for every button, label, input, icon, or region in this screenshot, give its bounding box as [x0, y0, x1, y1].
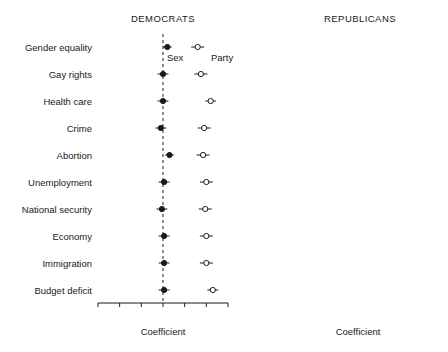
x-axis-title-democrats: Coefficient: [123, 326, 203, 337]
point-marker-sex: [161, 260, 166, 265]
point-marker-sex: [160, 98, 165, 103]
x-axis-title-republicans: Coefficient: [318, 326, 398, 337]
point-marker-party: [198, 71, 203, 76]
point-marker-party: [202, 125, 207, 130]
point-marker-sex: [159, 206, 164, 211]
point-marker-sex: [160, 71, 165, 76]
point-marker-sex: [161, 287, 166, 292]
point-marker-party: [195, 44, 200, 49]
point-marker-party: [204, 260, 209, 265]
point-marker-party: [210, 287, 215, 292]
annotation-sex: Sex: [167, 52, 183, 63]
point-marker-sex: [167, 152, 172, 157]
point-marker-sex: [161, 179, 166, 184]
point-marker-sex: [158, 125, 163, 130]
point-marker-sex: [165, 44, 170, 49]
point-marker-party: [208, 98, 213, 103]
point-marker-party: [204, 179, 209, 184]
coefficient-plot-figure: DEMOCRATS REPUBLICANS Gender equality Ga…: [0, 0, 448, 352]
annotation-party: Party: [211, 52, 233, 63]
point-marker-party: [203, 206, 208, 211]
point-marker-party: [200, 152, 205, 157]
point-marker-sex: [161, 233, 166, 238]
point-marker-party: [204, 233, 209, 238]
